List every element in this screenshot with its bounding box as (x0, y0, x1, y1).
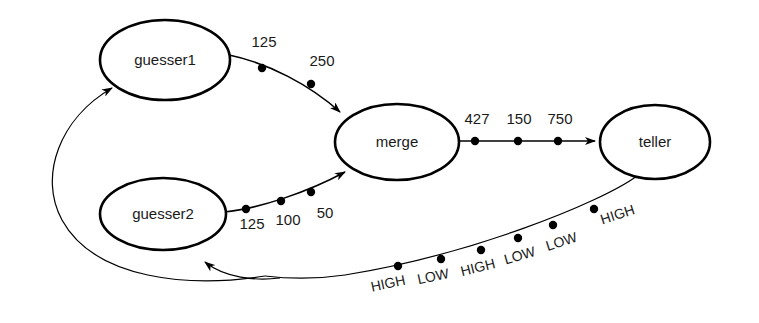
edge-guesser1-to-merge: 125 250 (229, 33, 340, 112)
node-guesser2[interactable]: guesser2 (100, 178, 226, 250)
token-dot (437, 255, 445, 263)
edge-token-label: 125 (251, 33, 276, 50)
edge-token-label: 427 (464, 110, 489, 127)
edge-line-feedback-main (265, 176, 637, 278)
edge-merge-to-teller: 427 150 750 (459, 110, 595, 145)
token-dot (394, 262, 402, 270)
token-dot (514, 234, 522, 242)
edge-token-label: LOW (544, 228, 580, 253)
edge-token-label: 125 (239, 215, 264, 232)
edge-token-label: 250 (309, 52, 334, 69)
node-label: merge (376, 133, 419, 150)
edge-token-label: LOW (416, 265, 451, 287)
node-teller[interactable]: teller (600, 105, 710, 179)
edge-token-label: 100 (275, 211, 300, 228)
token-dot (242, 205, 250, 213)
edge-token-label: HIGH (598, 201, 636, 227)
token-dot (477, 246, 485, 254)
edge-token-label: 50 (317, 204, 334, 221)
node-merge[interactable]: merge (335, 104, 459, 180)
token-dot (258, 64, 266, 72)
token-dot (554, 137, 562, 145)
edge-token-label: LOW (502, 243, 538, 267)
token-dot (590, 205, 598, 213)
edge-token-label: HIGH (459, 255, 497, 279)
diagram-canvas: 125 250 125 100 50 427 150 750 (0, 0, 759, 323)
edge-guesser2-to-merge: 125 100 50 (224, 172, 345, 232)
token-dot (471, 137, 479, 145)
node-guesser1[interactable]: guesser1 (100, 20, 230, 100)
diagram-svg: 125 250 125 100 50 427 150 750 (0, 0, 759, 323)
token-dot (514, 137, 522, 145)
node-label: teller (639, 133, 672, 150)
edge-token-label: 150 (506, 110, 531, 127)
edge-token-label: 750 (547, 110, 572, 127)
token-dot (307, 188, 315, 196)
edge-token-label: HIGH (369, 272, 407, 295)
node-label: guesser2 (132, 205, 194, 222)
node-label: guesser1 (134, 51, 196, 68)
token-dot (277, 197, 285, 205)
token-dot (307, 80, 315, 88)
token-dot (549, 221, 557, 229)
